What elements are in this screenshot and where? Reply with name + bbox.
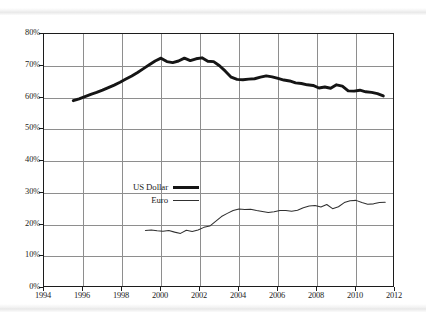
x-tick-label: 2012 — [374, 292, 414, 300]
x-tick-label: 2006 — [257, 292, 297, 300]
y-tick-label: 30% — [25, 188, 40, 196]
us-dollar-line — [73, 58, 383, 101]
scan-artifact-top — [0, 8, 426, 15]
chart-figure: 0%10%20%30%40%50%60%70%80% 1994199619982… — [0, 0, 426, 328]
y-tick-label: 20% — [25, 220, 40, 228]
x-tick-label: 1994 — [23, 292, 63, 300]
series-layer — [44, 34, 395, 288]
legend-swatch-euro — [173, 200, 199, 201]
x-tick-label: 2002 — [179, 292, 219, 300]
y-tick-label: 80% — [25, 29, 40, 37]
scan-artifact-bottom — [0, 304, 426, 312]
x-tick-label: 1998 — [101, 292, 141, 300]
x-tick-label: 2004 — [218, 292, 258, 300]
x-tick-label: 2010 — [335, 292, 375, 300]
legend-item-us-dollar: US Dollar — [104, 181, 199, 194]
y-tick-label: 50% — [25, 124, 40, 132]
y-tick-label: 10% — [25, 251, 40, 259]
legend-label-us-dollar: US Dollar — [133, 183, 168, 192]
y-tick-label: 60% — [25, 93, 40, 101]
y-tick-label: 70% — [25, 61, 40, 69]
legend-item-euro: Euro — [104, 194, 199, 207]
x-tick-label: 1996 — [62, 292, 102, 300]
plot-area: US Dollar Euro — [43, 33, 394, 287]
legend-swatch-us-dollar — [173, 186, 199, 189]
x-tick-label: 2008 — [296, 292, 336, 300]
legend-label-euro: Euro — [151, 196, 168, 205]
y-tick-label: 40% — [25, 156, 40, 164]
x-tick-label: 2000 — [140, 292, 180, 300]
chart-legend: US Dollar Euro — [104, 181, 199, 207]
